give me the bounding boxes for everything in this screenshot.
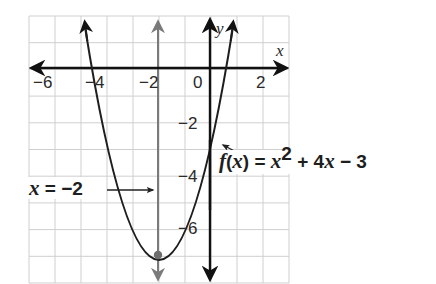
x-tick-label: 2 (256, 73, 265, 92)
vertex-point (154, 251, 162, 259)
parabola-graph: −6 −4 −2 0 2 −2 −4 −6 y x x = −2 f(x) = … (0, 0, 436, 284)
symmetry-annotation: x = −2 (27, 176, 153, 200)
x-axis-label: x (275, 41, 284, 60)
function-label: f(x) = x2 + 4x − 3 (219, 143, 367, 173)
curve-arrow-left (85, 22, 88, 41)
y-tick-label: −4 (178, 167, 197, 186)
symmetry-label: x = −2 (28, 176, 83, 200)
x-tick-label: −6 (33, 73, 52, 92)
curve-arrow-right (231, 22, 234, 41)
y-axis-label: y (214, 19, 224, 38)
y-tick-label: −6 (178, 219, 197, 238)
x-tick-label: −2 (139, 73, 158, 92)
x-tick-labels: −6 −4 −2 0 2 (33, 73, 265, 92)
y-tick-labels: −2 −4 −6 (178, 114, 197, 238)
x-tick-label: −4 (85, 73, 104, 92)
x-tick-label: 0 (193, 73, 202, 92)
y-tick-label: −2 (178, 114, 197, 133)
function-annotation: f(x) = x2 + 4x − 3 (217, 143, 417, 174)
